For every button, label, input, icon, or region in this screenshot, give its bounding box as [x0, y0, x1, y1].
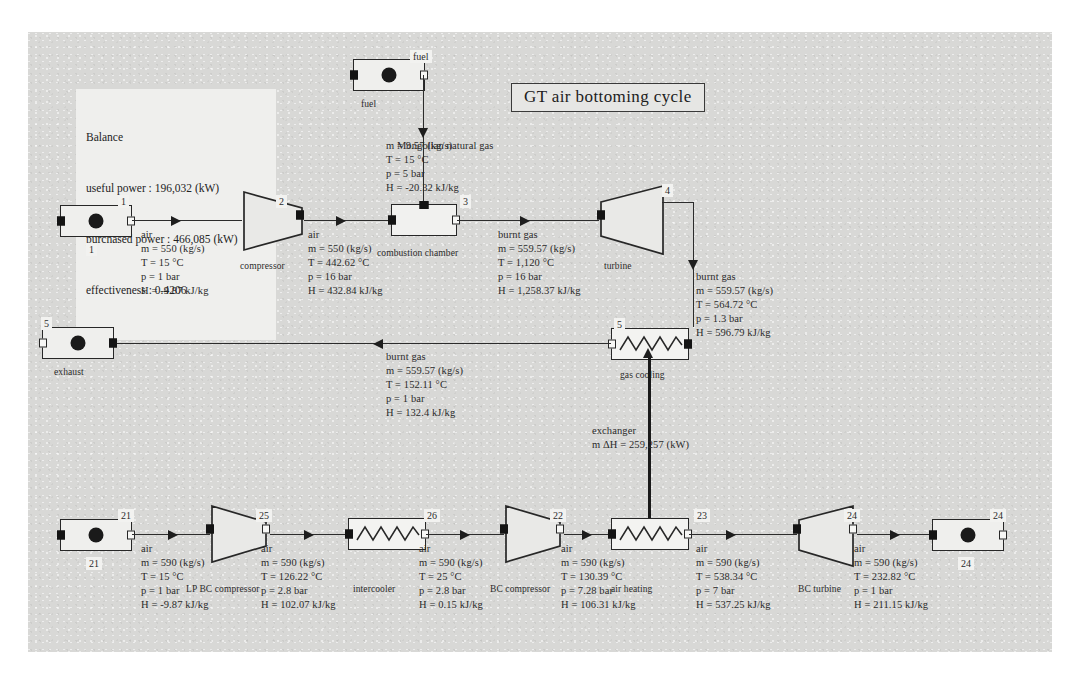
stream-fuel-p: p = 5 bar — [386, 167, 425, 181]
exhaust-sink-block[interactable] — [42, 327, 114, 359]
bc-turbine-label: BC turbine — [798, 583, 841, 595]
exhaust-inlet-port — [109, 339, 117, 348]
fuel-inlet-port — [350, 71, 358, 80]
stream-26-fluid: air — [419, 542, 430, 556]
exchanger-duty: m ΔH = 259,257 (kW) — [592, 438, 689, 452]
turbine-block[interactable] — [599, 184, 665, 256]
stream-5-p: p = 1 bar — [386, 392, 425, 406]
stream-22-arrow-icon — [582, 530, 592, 540]
stream-24-p: p = 1 bar — [854, 584, 893, 598]
bc-compressor-label: BC compressor — [490, 583, 550, 595]
stream-3-p: p = 16 bar — [498, 270, 542, 284]
stream-23-arrow-icon — [726, 530, 736, 540]
intercooler-block[interactable] — [348, 518, 426, 550]
stream-5-t: T = 152.11 °C — [386, 378, 447, 392]
stream-2-t: T = 442.62 °C — [308, 256, 369, 270]
compressor-outlet-port — [296, 211, 304, 220]
fuel-source-block[interactable] — [353, 59, 425, 91]
exhaust-label: exhaust — [54, 366, 84, 378]
stream-2-fluid: air — [308, 228, 319, 242]
stream-26-t: T = 25 °C — [419, 570, 462, 584]
bc-sink-right-port — [999, 531, 1007, 540]
stream-4-tag: 4 — [662, 184, 673, 197]
air-source-inlet-port — [57, 217, 65, 226]
bc-air-source-block[interactable] — [60, 519, 132, 551]
stream-3-t: T = 1,120 °C — [498, 256, 554, 270]
exhaust-left-port — [39, 339, 47, 348]
stream-1-arrow-icon — [171, 216, 181, 226]
stream-25-h: H = 102.07 kJ/kg — [261, 598, 336, 612]
stream-2-p: p = 16 bar — [308, 270, 352, 284]
bc-sink-label: 24 — [958, 557, 974, 570]
stream-5-m: m = 559.57 (kg/s) — [386, 364, 463, 378]
stream-25-tag: 25 — [256, 509, 272, 522]
sink-marker-icon — [961, 528, 976, 543]
combustion-chamber-block[interactable] — [391, 204, 457, 236]
fuel-stream-tag: fuel — [410, 50, 432, 63]
intercooler-inlet-port — [345, 530, 353, 539]
lp-bc-compressor-label: LP BC compressor — [186, 583, 260, 595]
stream-4-p: p = 1.3 bar — [696, 312, 743, 326]
stream-25-t: T = 126.22 °C — [261, 570, 322, 584]
stream-23-tag: 23 — [694, 509, 710, 522]
bc-turbine-inlet-port — [793, 525, 801, 534]
source-marker-icon — [382, 68, 397, 83]
stream-26-h: H = 0.15 kJ/kg — [419, 598, 483, 612]
stream-25-arrow-icon — [304, 530, 314, 540]
stream-25-m: m = 590 (kg/s) — [261, 556, 325, 570]
stream-1-line — [132, 220, 242, 221]
stream-24-arrow-icon — [890, 530, 900, 540]
stream-21-h: H = -9.87 kJ/kg — [141, 598, 209, 612]
stream-1-t: T = 15 °C — [141, 256, 184, 270]
stream-22-h: H = 106.31 kJ/kg — [561, 598, 636, 612]
diagram-title: GT air bottoming cycle — [511, 83, 705, 112]
stream-23-fluid: air — [696, 542, 707, 556]
stream-24-m: m = 590 (kg/s) — [854, 556, 918, 570]
stream-1-h: H = -9.87 kJ/kg — [141, 284, 209, 298]
stream-21-fluid: air — [141, 542, 152, 556]
air-heating-block[interactable] — [611, 518, 689, 550]
stream-22-fluid: air — [561, 542, 572, 556]
stream-5-tag: 5 — [614, 318, 625, 331]
balance-useful-power: useful power : 196,032 (kW) — [86, 180, 266, 197]
lp-bc-compressor-outlet-port — [262, 525, 270, 534]
stream-4-m: m = 559.57 (kg/s) — [696, 284, 773, 298]
combustion-fuel-inlet-port — [420, 201, 429, 209]
exchanger-arrow-up-icon — [643, 348, 653, 358]
stream-21-arrow-icon — [168, 530, 178, 540]
stream-23-h: H = 537.25 kJ/kg — [696, 598, 771, 612]
stream-4-h: H = 596.79 kJ/kg — [696, 326, 771, 340]
stream-fuel-t: T = 15 °C — [386, 153, 429, 167]
stream-1-tag: 1 — [118, 195, 129, 208]
source-marker-icon — [89, 528, 104, 543]
stream-4-t: T = 564.72 °C — [696, 298, 757, 312]
bc-sink-block[interactable] — [932, 519, 1004, 551]
stream-22-p: p = 7.28 bar — [561, 584, 613, 598]
stream-5-arrow-icon — [373, 339, 383, 349]
turbine-inlet-port — [597, 211, 605, 220]
stream-21-t: T = 15 °C — [141, 570, 184, 584]
stream-1-p: p = 1 bar — [141, 270, 180, 284]
air-source-label: 1 — [86, 243, 97, 256]
stream-1-m: m = 550 (kg/s) — [141, 242, 205, 256]
bc-sink-tag: 24 — [990, 509, 1006, 522]
stream-23-m: m = 590 (kg/s) — [696, 556, 760, 570]
stream-26-tag: 26 — [424, 509, 440, 522]
bc-source-label: 21 — [86, 557, 102, 570]
air-source-block[interactable] — [60, 205, 132, 237]
stream-5-fluid: burnt gas — [386, 350, 426, 364]
source-marker-icon — [89, 214, 104, 229]
stream-4-line-top — [662, 202, 694, 203]
stream-2-arrow-icon — [336, 216, 346, 226]
stream-22-t: T = 130.39 °C — [561, 570, 622, 584]
bc-compressor-inlet-port — [500, 525, 508, 534]
stream-22-m: m = 590 (kg/s) — [561, 556, 625, 570]
stream-3-h: H = 1,258.37 kJ/kg — [498, 284, 581, 298]
stream-4-arrow-icon — [688, 260, 698, 270]
compressor-block[interactable] — [242, 190, 304, 252]
combustion-air-inlet-port — [388, 216, 396, 225]
intercooler-label: intercooler — [353, 583, 395, 595]
exhaust-tag: 5 — [41, 317, 52, 330]
stream-1-fluid: air — [141, 228, 152, 242]
gas-cooling-inlet-port — [684, 340, 692, 349]
